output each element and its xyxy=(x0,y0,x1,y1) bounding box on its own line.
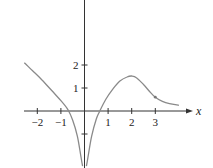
annotations xyxy=(154,96,157,99)
x-tick-label: 3 xyxy=(153,116,159,128)
point-marker xyxy=(154,96,157,99)
y-ticks: 12 xyxy=(73,59,88,134)
function-graph: x −2−1123 12 xyxy=(0,0,213,168)
x-axis-arrow-icon xyxy=(186,109,193,114)
curves xyxy=(24,63,179,167)
y-tick-label: 2 xyxy=(73,59,79,71)
x-tick-label: −1 xyxy=(55,116,67,128)
x-tick-label: −2 xyxy=(31,116,43,128)
axes: x xyxy=(24,0,202,168)
x-tick-label: 2 xyxy=(129,116,135,128)
x-tick-label: 1 xyxy=(105,116,111,128)
x-axis-label: x xyxy=(195,104,202,118)
y-tick-label: 1 xyxy=(73,82,79,94)
left-branch-curve xyxy=(24,63,82,167)
